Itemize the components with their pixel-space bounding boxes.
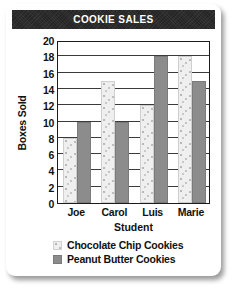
chart-card: COOKIE SALES Boxes Sold 0246810121416182… [6,4,221,276]
y-tick-label: 12 [43,100,54,112]
bar-chocolate-chip [140,105,154,203]
legend-item: Peanut Butter Cookies [53,252,218,266]
y-tick-label: 4 [48,165,54,177]
chart-area: Boxes Sold 02468101214161820 JoeCarolLui… [6,29,221,276]
y-tick-label: 20 [43,35,54,47]
legend-label: Peanut Butter Cookies [67,253,175,265]
bar-group [101,42,129,203]
bar-group [178,42,206,203]
bar-chocolate-chip [63,138,77,203]
page-title: COOKIE SALES [73,14,153,25]
x-tick-label: Carol [101,206,127,218]
chart-title-bar: COOKIE SALES [12,10,215,29]
y-tick-label: 10 [43,117,54,129]
y-tick-label: 16 [43,68,54,80]
bar-peanut-butter [115,122,129,204]
legend-swatch-icon [53,241,62,250]
x-tick-label: Marie [178,206,204,218]
y-axis-ticks: 02468101214161820 [28,41,54,204]
bar-series-container [58,42,209,203]
x-tick-label: Joe [67,206,85,218]
y-tick-label: 2 [48,182,54,194]
y-tick-label: 8 [48,133,54,145]
plot-frame [57,41,210,204]
y-axis-label: Boxes Sold [16,83,28,163]
y-tick-label: 18 [43,51,54,63]
bar-group [140,42,168,203]
bar-peanut-butter [154,56,168,203]
bar-peanut-butter [77,122,91,204]
legend-swatch-icon [53,255,62,264]
y-tick-label: 0 [48,198,54,210]
chart-legend: Chocolate Chip CookiesPeanut Butter Cook… [53,238,218,266]
y-tick-label: 6 [48,149,54,161]
x-axis-label: Student [57,221,210,233]
y-tick-label: 14 [43,84,54,96]
legend-label: Chocolate Chip Cookies [67,239,183,251]
bar-group [63,42,91,203]
x-tick-label: Luis [142,206,163,218]
x-axis-ticks: JoeCarolLuisMarie [57,206,210,220]
legend-item: Chocolate Chip Cookies [53,238,218,252]
bar-peanut-butter [192,81,206,203]
bar-chocolate-chip [101,81,115,203]
bar-chocolate-chip [178,56,192,203]
